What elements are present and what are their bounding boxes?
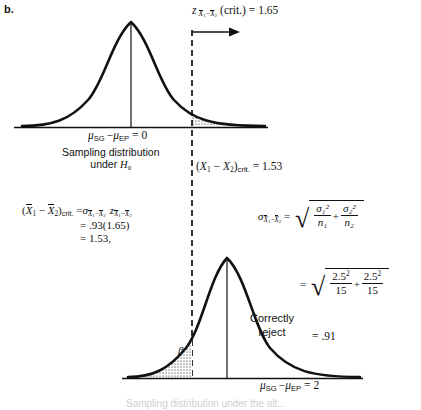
equation-right-result: = .91 (312, 330, 336, 343)
left-result: 1.53 (89, 232, 108, 244)
h-symbol: H (120, 159, 128, 170)
fraction-sigma1: σ₁² n₁ (314, 202, 331, 228)
x-a-sub: 1 (207, 165, 211, 174)
xbar-h: X (274, 216, 278, 224)
beta-label: β (178, 344, 183, 357)
n1: n₁ (314, 215, 331, 229)
z-critical-label: zX1−X2(crit.) = 1.65 (192, 4, 278, 19)
top-caption-line2: under H0 (62, 158, 159, 172)
top-distribution (14, 22, 268, 127)
xbar-f-sub: 2 (129, 213, 131, 218)
critical-value-indicator (192, 28, 240, 379)
equals-f: = (80, 232, 86, 244)
bottom-cut-caption: Sampling distribution under the alt... (126, 398, 286, 410)
sub-sg-a: SG (94, 134, 105, 143)
numeric-den-2: 15 (362, 283, 383, 297)
equals-h: = (300, 278, 306, 290)
rejection-arrow-head (229, 28, 240, 37)
equation-right-symbolic: σX1−X2 = √ σ₁² n₁ + σ₂² n₂ (258, 200, 364, 230)
equals-b: = (132, 129, 139, 141)
equation-left-line3: = 1.53, (80, 232, 132, 245)
top-mean-label: μSG−μEP = 0 (88, 129, 147, 144)
xbar-b: X (48, 204, 55, 217)
sigma1-squared: σ₁² (314, 202, 331, 215)
equals-c: = (253, 160, 260, 172)
xbar2: X (210, 10, 215, 19)
fraction-sigma2: σ₂² n₂ (341, 202, 358, 228)
xbar-a: X (26, 204, 33, 217)
sigma2-squared: σ₂² (341, 202, 358, 215)
numeric-num-1: 2.52 (330, 270, 351, 283)
top-mean-value: 0 (141, 129, 147, 141)
numeric-num-2: 2.52 (362, 270, 383, 283)
top-normal-curve (22, 22, 265, 126)
sigma-numeric: .93 (89, 219, 103, 231)
xbar-d: X (99, 210, 103, 218)
crit-sub-b: crit. (62, 209, 74, 218)
equals-e: = (80, 219, 86, 231)
crit-value-a: 1.53 (262, 160, 282, 172)
xbar1: X (198, 10, 203, 19)
bottom-mean-label: μSG−μEP = 2 (260, 379, 319, 394)
plus-b: + (354, 278, 360, 290)
plus-a: + (333, 210, 339, 222)
minus-d: − (39, 204, 45, 216)
n2: n₂ (341, 215, 358, 229)
radical-glyph-b: √ (311, 277, 325, 298)
minus-c: − (214, 160, 221, 172)
z-crit-value: 1.65 (258, 4, 278, 16)
bottom-mean-value: 2 (313, 379, 319, 391)
xbar-g: X (263, 216, 267, 224)
equals-g: = (284, 210, 290, 222)
z-numeric: 1.65 (106, 219, 125, 231)
x-a: X (200, 160, 207, 172)
correctly-reject-label: Correctly reject (250, 312, 294, 340)
exp-2: 2 (378, 270, 382, 278)
x-b: X (223, 160, 230, 172)
xbar-a-sub: 1 (32, 210, 36, 218)
equation-left-line2: = .93(1.65) (80, 219, 132, 232)
sub-sg-b: SG (266, 384, 277, 393)
sigma-result-value: .91 (321, 330, 335, 342)
exp-1: 2 (346, 270, 350, 278)
xbar-d-sub: 2 (103, 213, 105, 218)
panel-label: b. (4, 3, 14, 16)
correctly-reject-line1: Correctly (250, 312, 294, 326)
radical-numeric: √ 2.52 15 + 2.52 15 (309, 268, 389, 298)
numeric-den-1: 15 (330, 283, 351, 297)
xbar-e: X (114, 210, 118, 218)
crit-paren: (crit.) (220, 4, 246, 16)
equals-j: = (304, 379, 311, 391)
h-sub-zero: 0 (128, 164, 131, 171)
fraction-numeric-2: 2.52 15 (362, 270, 383, 296)
xbar-h-sub: 2 (279, 219, 281, 224)
sub-2: 2 (215, 14, 218, 19)
critical-value-label: (X1 − X2)crit. = 1.53 (196, 160, 282, 175)
radical-glyph-a: √ (295, 209, 309, 230)
top-caption-line1: Sampling distribution (62, 146, 159, 158)
equation-left: (X1 − X2)crit. =σX1−X2zX1−X2 = .93(1.65)… (22, 204, 132, 244)
xbar-c: X (88, 210, 92, 218)
val-num-2: 2.5 (364, 270, 378, 282)
z-symbol: z (192, 4, 196, 16)
correctly-reject-line2: reject (250, 326, 294, 340)
crit-sub-a: crit. (238, 165, 250, 174)
fraction-numeric-1: 2.52 15 (330, 270, 351, 296)
sub-ep-b: EP (291, 384, 301, 393)
equals-a: = (249, 4, 256, 16)
sub-ep-a: EP (119, 134, 129, 143)
equals-i: = (312, 330, 319, 342)
val-num-1: 2.5 (332, 270, 346, 282)
paren-close-c: ) (126, 219, 130, 231)
radical-symbolic: √ σ₁² n₁ + σ₂² n₂ (293, 200, 364, 230)
equation-right-numeric: = √ 2.52 15 + 2.52 15 (300, 268, 389, 298)
xbar-f: X (125, 210, 129, 218)
top-caption: Sampling distribution under H0 (62, 146, 159, 172)
